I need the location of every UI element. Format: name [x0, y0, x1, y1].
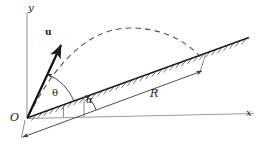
- range-dimension-group: [22, 55, 206, 139]
- y-axis-label: y: [28, 3, 34, 13]
- incline-angle-label: α: [86, 95, 93, 105]
- trajectory-path: [29, 28, 200, 115]
- range-dimension-line: [23, 71, 202, 137]
- launch-angle-label: θ: [52, 88, 58, 98]
- range-extension-right: [200, 55, 206, 73]
- x-axis-line: [27, 114, 254, 119]
- range-label: R: [150, 88, 158, 99]
- projectile-incline-diagram: y x O u θ α R: [0, 0, 265, 146]
- inclined-plane-group: [27, 38, 249, 121]
- x-axis-label: x: [246, 108, 252, 118]
- incline-surface-line: [27, 38, 249, 119]
- range-extension-left: [22, 120, 26, 138]
- diagram-canvas: [0, 0, 265, 146]
- origin-label: O: [10, 112, 19, 123]
- velocity-label: u: [45, 28, 52, 37]
